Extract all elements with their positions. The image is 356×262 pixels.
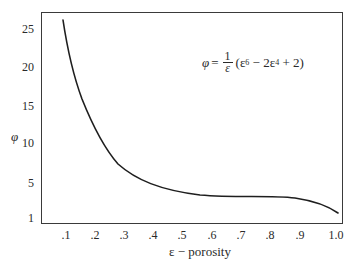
phi-curve <box>0 0 356 262</box>
y-tick-label: 5 <box>28 177 34 189</box>
formula-annotation: φ = 1 ε (ε6 − 2ε4 + 2) <box>202 51 304 74</box>
x-axis-label: ε − porosity <box>169 244 231 260</box>
fraction-denominator: ε <box>225 63 230 74</box>
y-tick-label: 15 <box>22 100 34 112</box>
x-tick-label: .7 <box>237 229 246 241</box>
x-tick-label: .4 <box>149 229 158 241</box>
y-tick-label: 1 <box>28 212 34 224</box>
y-tick-label: 20 <box>22 61 34 73</box>
x-tick-label: .9 <box>296 229 305 241</box>
x-tick-label: .8 <box>266 229 275 241</box>
x-tick-label: 1.0 <box>329 229 344 241</box>
x-tick-label: .6 <box>208 229 217 241</box>
y-axis-label: φ <box>11 129 18 145</box>
x-tick-label: .1 <box>62 229 71 241</box>
x-tick-label: .2 <box>91 229 100 241</box>
formula-tail: + 2) <box>279 55 304 71</box>
formula-mid: − 2ε <box>249 55 275 71</box>
porosity-chart: 2520151051 .1.2.3.4.5.6.7.8.91.0 φ ε − p… <box>0 0 356 262</box>
x-tick-label: .5 <box>178 229 187 241</box>
formula-open: (ε <box>236 55 246 71</box>
formula-fraction: 1 ε <box>223 51 233 74</box>
x-tick-label: .3 <box>120 229 129 241</box>
y-tick-label: 10 <box>22 137 34 149</box>
formula-equals: = <box>211 55 218 71</box>
formula-lhs: φ <box>202 55 209 71</box>
y-tick-label: 25 <box>22 23 34 35</box>
